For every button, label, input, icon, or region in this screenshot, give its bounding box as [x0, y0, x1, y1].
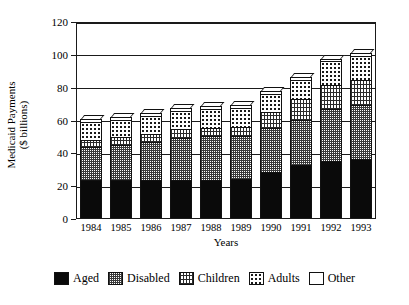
x-tick-label-1987: 1987	[164, 222, 198, 234]
x-tick-label-1985: 1985	[104, 222, 138, 234]
bar-1986[interactable]	[140, 113, 162, 218]
bar-top-cap-1990	[261, 87, 284, 91]
bar-1992[interactable]	[320, 59, 342, 218]
bar-segment-1991-disabled[interactable]	[290, 120, 312, 165]
bar-segment-1985-adults[interactable]	[110, 120, 132, 137]
x-tick-label-1984: 1984	[74, 222, 108, 234]
bar-segment-1990-other[interactable]	[260, 91, 282, 94]
bar-segment-1986-adults[interactable]	[140, 116, 162, 134]
x-tick-label-1988: 1988	[194, 222, 228, 234]
legend-swatch-children-icon	[179, 272, 194, 285]
bar-1988[interactable]	[200, 106, 222, 218]
bar-segment-1984-disabled[interactable]	[80, 147, 102, 181]
bar-segment-1992-other[interactable]	[320, 59, 342, 61]
bar-segment-1990-disabled[interactable]	[260, 128, 282, 172]
bar-1990[interactable]	[260, 91, 282, 218]
legend-item-aged[interactable]: Aged	[54, 272, 99, 285]
bar-segment-1986-disabled[interactable]	[140, 142, 162, 180]
bar-segment-1985-children[interactable]	[110, 137, 132, 145]
bar-top-cap-1993	[351, 49, 374, 53]
y-tick-label: 0	[34, 214, 68, 225]
legend-label: Adults	[268, 272, 300, 285]
x-tick-label-1992: 1992	[314, 222, 348, 234]
legend-label: Aged	[73, 272, 99, 285]
bar-segment-1989-disabled[interactable]	[230, 136, 252, 179]
bar-1985[interactable]	[110, 117, 132, 218]
bar-segment-1989-adults[interactable]	[230, 108, 252, 127]
legend-label: Disabled	[127, 272, 170, 285]
legend-item-children[interactable]: Children	[179, 272, 240, 285]
bar-segment-1990-children[interactable]	[260, 112, 282, 128]
x-axis-title: Years	[76, 236, 376, 248]
y-tick-label: 40	[34, 148, 68, 159]
bar-segment-1987-other[interactable]	[170, 108, 192, 111]
legend-item-disabled[interactable]: Disabled	[108, 272, 170, 285]
bar-segment-1988-other[interactable]	[200, 106, 222, 109]
x-tick-label-1991: 1991	[284, 222, 318, 234]
bar-segment-1986-aged[interactable]	[140, 180, 162, 218]
y-tick-label: 20	[34, 181, 68, 192]
bar-segment-1992-aged[interactable]	[320, 161, 342, 218]
bar-segment-1992-children[interactable]	[320, 85, 342, 110]
bar-1991[interactable]	[290, 77, 312, 218]
bar-segment-1987-children[interactable]	[170, 129, 192, 137]
y-tick-label: 100	[34, 50, 68, 61]
y-tick-label: 120	[34, 17, 68, 28]
bar-segment-1990-adults[interactable]	[260, 94, 282, 112]
bar-segment-1991-other[interactable]	[290, 77, 312, 80]
x-tick-label-1989: 1989	[224, 222, 258, 234]
bar-segment-1993-disabled[interactable]	[350, 105, 372, 159]
bar-top-cap-1992	[321, 55, 344, 59]
bar-segment-1993-aged[interactable]	[350, 159, 372, 218]
bar-segment-1984-children[interactable]	[80, 140, 102, 147]
legend-swatch-adults-icon	[249, 272, 264, 285]
plot-area	[76, 22, 376, 219]
y-axis-title-line1: Medicaid Payments	[5, 81, 17, 168]
bar-top-cap-1985	[111, 113, 134, 117]
bar-segment-1987-disabled[interactable]	[170, 138, 192, 180]
bar-segment-1986-children[interactable]	[140, 134, 162, 142]
bar-segment-1984-adults[interactable]	[80, 122, 102, 139]
bar-segment-1992-adults[interactable]	[320, 61, 342, 85]
bar-top-cap-1988	[201, 102, 224, 106]
bar-segment-1987-adults[interactable]	[170, 111, 192, 129]
bar-segment-1987-aged[interactable]	[170, 180, 192, 218]
bar-segment-1986-other[interactable]	[140, 113, 162, 116]
bar-top-cap-1989	[231, 101, 254, 105]
legend-item-other[interactable]: Other	[309, 272, 355, 285]
bar-1987[interactable]	[170, 108, 192, 218]
bar-segment-1991-aged[interactable]	[290, 165, 312, 218]
bar-segment-1988-aged[interactable]	[200, 180, 222, 218]
bar-segment-1985-disabled[interactable]	[110, 145, 132, 180]
bar-1993[interactable]	[350, 53, 372, 218]
bar-1989[interactable]	[230, 105, 252, 218]
legend: AgedDisabledChildrenAdultsOther	[0, 272, 409, 285]
bar-segment-1988-adults[interactable]	[200, 109, 222, 128]
legend-swatch-other-icon	[309, 272, 324, 285]
bar-segment-1993-other[interactable]	[350, 53, 372, 56]
bar-segment-1991-adults[interactable]	[290, 80, 312, 100]
bar-1984[interactable]	[80, 119, 102, 218]
legend-item-adults[interactable]: Adults	[249, 272, 300, 285]
bar-segment-1993-adults[interactable]	[350, 56, 372, 81]
y-tick-label: 80	[34, 83, 68, 94]
bar-segment-1984-aged[interactable]	[80, 180, 102, 218]
gridline	[77, 23, 375, 24]
legend-label: Children	[198, 272, 240, 285]
bar-segment-1988-disabled[interactable]	[200, 136, 222, 180]
bar-top-cap-1984	[81, 115, 104, 119]
bar-segment-1993-children[interactable]	[350, 80, 372, 104]
bar-segment-1989-aged[interactable]	[230, 179, 252, 218]
bar-segment-1989-children[interactable]	[230, 127, 252, 136]
x-axis-tick-labels: 1984198519861987198819891990199119921993	[76, 222, 376, 236]
bar-segment-1992-disabled[interactable]	[320, 109, 342, 161]
bar-segment-1991-children[interactable]	[290, 99, 312, 120]
bar-segment-1989-other[interactable]	[230, 105, 252, 108]
x-tick-label-1993: 1993	[344, 222, 378, 234]
bar-segment-1988-children[interactable]	[200, 128, 222, 137]
bar-segment-1985-other[interactable]	[110, 117, 132, 120]
y-tick-mark	[71, 219, 76, 220]
bar-segment-1984-other[interactable]	[80, 119, 102, 123]
bar-segment-1985-aged[interactable]	[110, 180, 132, 218]
bar-segment-1990-aged[interactable]	[260, 172, 282, 218]
